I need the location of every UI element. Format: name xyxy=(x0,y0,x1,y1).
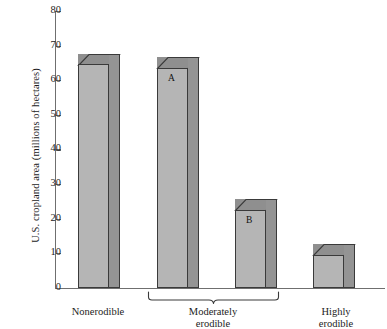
y-tick-label-50: 50 xyxy=(37,109,61,120)
category-label-nonerodible: Nonerodible xyxy=(48,306,148,318)
category-label-highly-line2: erodible xyxy=(296,318,376,329)
moderately-erodible-brace xyxy=(147,291,280,304)
y-tick-40: 40 xyxy=(0,149,61,150)
y-tick-label-60: 60 xyxy=(37,74,61,85)
category-label-moderately-line2: erodible xyxy=(163,318,263,329)
y-tick-30: 30 xyxy=(0,184,61,185)
category-label-moderately-erodible: Moderately erodible xyxy=(163,306,263,329)
category-label-highly-erodible: Highly erodible xyxy=(296,306,376,329)
bar-moderately-erodible-a: A xyxy=(157,0,188,289)
y-tick-60: 60 xyxy=(0,80,61,81)
y-tick-label-70: 70 xyxy=(37,40,61,51)
category-label-highly-line1: Highly xyxy=(296,306,376,318)
y-tick-label-0: 0 xyxy=(37,282,61,293)
bar-front-face xyxy=(157,68,188,288)
y-tick-label-80: 80 xyxy=(37,5,61,16)
y-tick-label-40: 40 xyxy=(37,143,61,154)
bar-front-face xyxy=(78,64,109,288)
y-tick-label-10: 10 xyxy=(37,247,61,258)
y-tick-70: 70 xyxy=(0,46,61,47)
y-tick-80: 80 xyxy=(0,11,61,12)
category-label-moderately-line1: Moderately xyxy=(163,306,263,318)
bar-top-face xyxy=(78,54,109,65)
y-tick-label-30: 30 xyxy=(37,178,61,189)
bar-front-face xyxy=(313,255,344,288)
bar-side-face xyxy=(266,199,277,288)
bar-annotation-a: A xyxy=(168,73,175,83)
bar-highly-erodible xyxy=(313,0,344,289)
y-tick-10: 10 xyxy=(0,253,61,254)
bar-top-face xyxy=(157,57,188,68)
bar-annotation-b: B xyxy=(246,215,252,225)
bar-side-face xyxy=(344,244,355,288)
y-tick-20: 20 xyxy=(0,219,61,220)
y-tick-label-20: 20 xyxy=(37,213,61,224)
y-tick-0: 0 xyxy=(0,288,61,289)
bar-moderately-erodible-b: B xyxy=(235,0,266,289)
bar-chart: U.S. cropland area (millions of hectares… xyxy=(0,0,387,329)
y-tick-50: 50 xyxy=(0,115,61,116)
bar-top-face xyxy=(235,199,266,210)
bar-side-face xyxy=(188,57,199,288)
bar-top-face xyxy=(313,244,344,255)
bar-side-face xyxy=(109,54,120,288)
category-label-nonerodible-line1: Nonerodible xyxy=(48,306,148,318)
bar-nonerodible xyxy=(78,0,109,289)
